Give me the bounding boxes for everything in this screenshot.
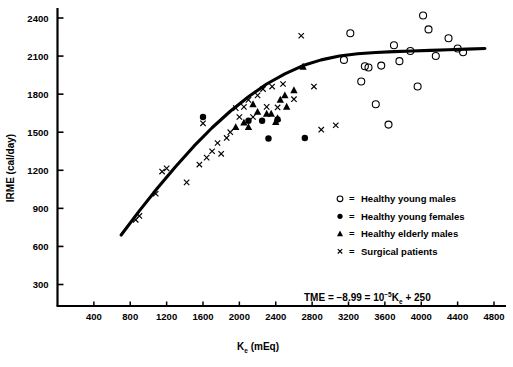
x-tick-label-1200: 1200 bbox=[156, 311, 177, 322]
data-point-1-4 bbox=[265, 135, 271, 141]
data-point-3-6 bbox=[200, 121, 205, 126]
x-tick-label-4400: 4400 bbox=[447, 311, 468, 322]
data-point-2-3 bbox=[254, 108, 261, 115]
x-axis-ticks: 4008001200160020002400280032003600400044… bbox=[86, 302, 505, 323]
x-tick-label-3600: 3600 bbox=[374, 311, 395, 322]
data-point-0-5 bbox=[372, 101, 379, 108]
x-axis-title: Ke (mEq) bbox=[237, 341, 279, 354]
data-point-3-9 bbox=[215, 140, 220, 145]
equation-text: TME = −8.99 = 10−5Ke + 250 bbox=[304, 291, 431, 305]
legend-equals-0: = bbox=[349, 193, 355, 204]
data-point-0-0 bbox=[340, 56, 347, 63]
data-point-3-24 bbox=[291, 97, 296, 102]
legend: =Healthy young males=Healthy young femal… bbox=[337, 193, 465, 257]
data-point-2-10 bbox=[283, 103, 290, 110]
x-tick-label-4000: 4000 bbox=[411, 311, 432, 322]
data-point-0-8 bbox=[390, 42, 397, 49]
data-point-3-22 bbox=[275, 105, 280, 110]
legend-item-0: =Healthy young males bbox=[337, 193, 456, 204]
y-tick-label-2400: 2400 bbox=[27, 13, 48, 24]
x-tick-label-2400: 2400 bbox=[265, 311, 286, 322]
data-point-3-18 bbox=[255, 93, 260, 98]
data-point-0-12 bbox=[420, 12, 427, 19]
x-tick-label-400: 400 bbox=[86, 311, 102, 322]
data-point-0-6 bbox=[378, 62, 385, 69]
legend-label-3: Surgical patients bbox=[361, 246, 438, 257]
data-point-3-10 bbox=[218, 151, 223, 156]
x-tick-label-1600: 1600 bbox=[192, 311, 213, 322]
legend-equals-3: = bbox=[349, 246, 355, 257]
y-tick-label-1500: 1500 bbox=[27, 127, 48, 138]
data-point-0-14 bbox=[432, 53, 439, 60]
data-point-3-8 bbox=[209, 149, 214, 154]
data-point-3-23 bbox=[280, 81, 285, 86]
data-point-2-11 bbox=[290, 86, 297, 93]
data-point-3-14 bbox=[237, 114, 242, 119]
data-point-1-5 bbox=[302, 135, 308, 141]
data-point-3-17 bbox=[250, 114, 255, 119]
legend-marker-cross bbox=[338, 249, 342, 253]
series-2 bbox=[232, 63, 307, 130]
x-tick-label-2000: 2000 bbox=[229, 311, 250, 322]
data-point-2-13 bbox=[232, 123, 239, 130]
data-point-3-25 bbox=[311, 84, 316, 89]
data-point-3-5 bbox=[197, 162, 202, 167]
legend-item-3: =Surgical patients bbox=[338, 246, 438, 257]
data-point-2-9 bbox=[281, 91, 288, 98]
x-tick-label-3200: 3200 bbox=[338, 311, 359, 322]
legend-label-2: Healthy elderly males bbox=[361, 228, 458, 239]
scatter-plot: 30060090012001500180021002400 4008001200… bbox=[0, 0, 513, 367]
legend-marker-open-circle bbox=[337, 196, 343, 202]
data-point-2-5 bbox=[268, 110, 275, 117]
y-tick-label-600: 600 bbox=[33, 241, 49, 252]
data-point-3-26 bbox=[319, 127, 324, 132]
y-tick-label-900: 900 bbox=[33, 203, 49, 214]
data-point-0-2 bbox=[358, 78, 365, 85]
data-point-1-0 bbox=[200, 114, 206, 120]
y-axis-title: IRME (cal/day) bbox=[5, 134, 16, 202]
data-point-3-3 bbox=[159, 169, 164, 174]
legend-marker-filled-circle bbox=[337, 214, 342, 219]
series-0 bbox=[340, 12, 466, 128]
data-point-3-27 bbox=[333, 123, 338, 128]
x-tick-label-4800: 4800 bbox=[483, 311, 504, 322]
data-point-0-9 bbox=[396, 58, 403, 65]
legend-item-1: =Healthy young females bbox=[337, 211, 464, 222]
data-point-3-7 bbox=[204, 155, 209, 160]
equation-annotation: TME = −8.99 = 10−5Ke + 250 bbox=[304, 291, 431, 305]
x-tick-label-2800: 2800 bbox=[302, 311, 323, 322]
data-point-3-4 bbox=[164, 166, 169, 171]
data-point-3-20 bbox=[264, 104, 269, 109]
data-point-0-13 bbox=[425, 26, 432, 33]
y-tick-label-2100: 2100 bbox=[27, 51, 48, 62]
chart-figure: 30060090012001500180021002400 4008001200… bbox=[0, 0, 513, 367]
data-point-3-21 bbox=[269, 84, 274, 89]
legend-label-1: Healthy young females bbox=[361, 211, 464, 222]
data-point-3-28 bbox=[299, 33, 304, 38]
legend-equals-2: = bbox=[349, 228, 355, 239]
axes bbox=[57, 8, 507, 306]
data-point-3-15 bbox=[241, 104, 246, 109]
legend-equals-1: = bbox=[349, 211, 355, 222]
data-points bbox=[133, 12, 467, 223]
data-point-0-1 bbox=[347, 30, 354, 37]
y-tick-label-1200: 1200 bbox=[27, 165, 48, 176]
data-point-3-12 bbox=[228, 130, 233, 135]
x-tick-label-800: 800 bbox=[122, 311, 138, 322]
legend-marker-filled-triangle bbox=[337, 231, 343, 237]
regression-curve bbox=[121, 48, 485, 235]
legend-item-2: =Healthy elderly males bbox=[337, 228, 458, 239]
data-point-1-2 bbox=[259, 118, 265, 124]
fit-curve bbox=[121, 48, 485, 235]
data-point-3-11 bbox=[224, 135, 229, 140]
data-point-3-29 bbox=[184, 180, 189, 185]
data-point-0-7 bbox=[385, 121, 392, 128]
data-point-0-15 bbox=[445, 35, 452, 42]
data-point-0-11 bbox=[414, 83, 421, 90]
legend-label-0: Healthy young males bbox=[361, 193, 456, 204]
y-tick-label-1800: 1800 bbox=[27, 89, 48, 100]
y-tick-label-300: 300 bbox=[33, 279, 49, 290]
